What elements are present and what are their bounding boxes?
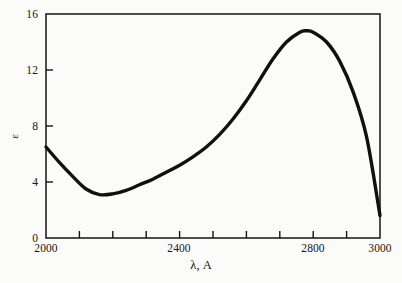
x-tick-label-3000: 3000 <box>360 243 400 255</box>
x-axis-title: λ, A <box>0 259 402 272</box>
y-tick-label-16: 16 <box>18 9 38 21</box>
y-tick-label-4: 4 <box>22 177 38 189</box>
data-curve-group <box>46 31 380 216</box>
absorption-spectrum-figure: 0 4 8 12 16 2000 2400 2800 3000 λ, A ε <box>0 0 402 283</box>
y-axis-title: ε <box>9 128 20 146</box>
y-tick-label-12: 12 <box>18 65 38 77</box>
x-tick-label-2000: 2000 <box>26 243 66 255</box>
data-curve <box>46 31 380 216</box>
x-tick-label-2400: 2400 <box>159 243 199 255</box>
y-tick-label-8: 8 <box>22 121 38 133</box>
x-tick-label-2800: 2800 <box>293 243 333 255</box>
plot-canvas <box>0 0 402 283</box>
